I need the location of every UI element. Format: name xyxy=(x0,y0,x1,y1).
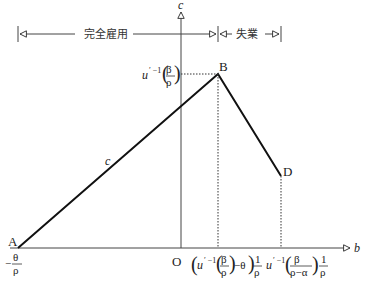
svg-text:θ: θ xyxy=(13,251,18,263)
consumption-curve xyxy=(18,74,281,248)
region-unemployment-label: 失業 xyxy=(236,28,258,41)
svg-text:′ −1: ′ −1 xyxy=(149,66,161,75)
svg-text:1: 1 xyxy=(255,253,261,265)
svg-text:): ) xyxy=(312,253,319,276)
svg-text:β: β xyxy=(294,253,300,265)
point-a-label: A xyxy=(8,234,18,249)
svg-text:u: u xyxy=(142,68,148,82)
svg-text:u: u xyxy=(197,258,203,272)
svg-text:ρ: ρ xyxy=(320,266,326,278)
svg-text:ρ: ρ xyxy=(254,266,260,278)
svg-text:β: β xyxy=(166,63,172,75)
svg-text:): ) xyxy=(174,62,181,85)
y-tick-label: u ′ −1 ( β ρ ) xyxy=(142,62,181,88)
svg-text:ρ: ρ xyxy=(221,266,227,278)
curve-label: c xyxy=(105,154,111,168)
svg-text:1: 1 xyxy=(321,253,327,265)
x-tick-label-b: ( u ′ −1 ( β ρ ) −θ ) 1 ρ xyxy=(191,252,262,278)
svg-text:′ −1: ′ −1 xyxy=(204,256,216,265)
point-b-label: B xyxy=(219,59,228,74)
y-axis-label: c xyxy=(178,0,184,12)
svg-text:u: u xyxy=(266,258,272,272)
x-axis-label: b xyxy=(354,241,360,255)
svg-text:−: − xyxy=(5,257,11,269)
svg-text:ρ: ρ xyxy=(166,76,172,88)
x-tick-label-d: u ′ −1 ( β ρ−α ) 1 ρ xyxy=(266,253,328,278)
point-a-x-tick: − θ ρ xyxy=(5,251,22,276)
svg-text:ρ−α: ρ−α xyxy=(290,266,308,278)
svg-text:ρ: ρ xyxy=(13,264,19,276)
svg-text:β: β xyxy=(221,253,227,265)
svg-text:′ −1: ′ −1 xyxy=(273,256,285,265)
point-d-label: D xyxy=(283,164,292,179)
region-full-employment-label: 完全雇用 xyxy=(84,27,128,41)
svg-text:−θ: −θ xyxy=(234,259,245,271)
diagram-canvas: b c O 完全雇用 失業 c A B D − θ ρ u ′ −1 ( β ρ… xyxy=(0,0,366,288)
origin-label: O xyxy=(172,254,181,269)
